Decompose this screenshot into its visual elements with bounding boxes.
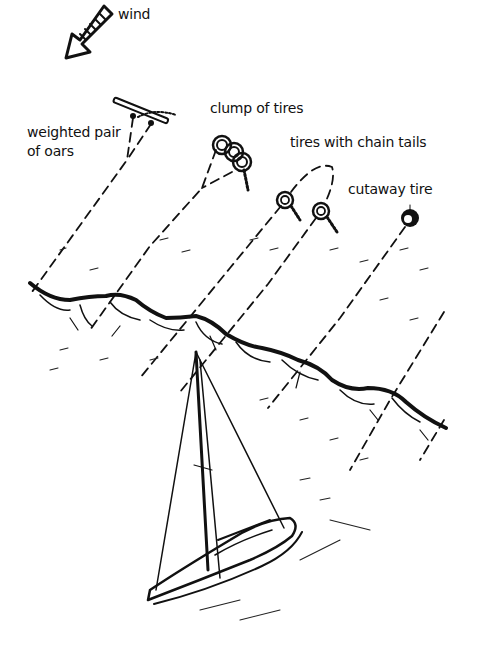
- oars-label-line2: of oars: [27, 143, 74, 160]
- oars-icon: [113, 97, 176, 126]
- cutaway-tire-icon: [401, 209, 419, 227]
- wind-arrow-icon: [66, 6, 112, 58]
- sailboat-icon: [148, 352, 302, 604]
- chain-tails-label: tires with chain tails: [290, 134, 426, 151]
- cutaway-tire-label: cutaway tire: [348, 181, 432, 198]
- wind-label: wind: [118, 6, 150, 23]
- oars-label-line1: weighted pair: [27, 124, 121, 141]
- wave-crest: [30, 283, 446, 440]
- clump-of-tires-label: clump of tires: [210, 100, 303, 117]
- drogue-diagram: wind weighted pair of oars clump of tire…: [0, 0, 480, 649]
- clump-of-tires-icon: [213, 136, 251, 190]
